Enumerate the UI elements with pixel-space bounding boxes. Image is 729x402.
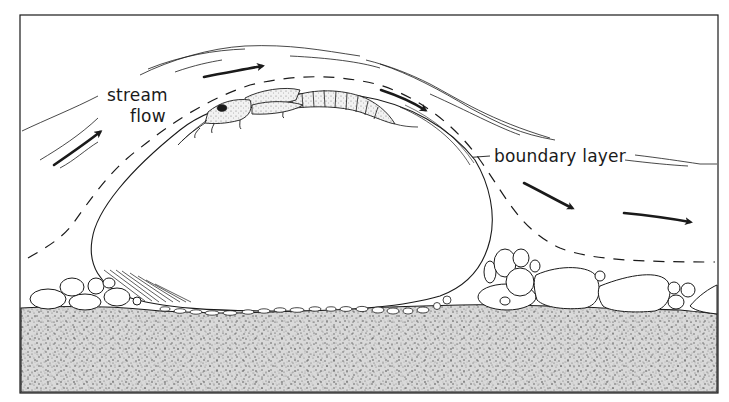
boundary-layer-label: boundary layer bbox=[494, 148, 626, 165]
pebbles-right bbox=[478, 249, 717, 314]
diagram-canvas bbox=[0, 0, 729, 402]
flow-arrow-icon bbox=[624, 213, 690, 222]
sand-substrate bbox=[21, 305, 717, 392]
larva-eye bbox=[217, 105, 227, 112]
flow-arrow-icon bbox=[54, 132, 100, 165]
stream-boundary-layer-diagram: stream flow boundary layer bbox=[0, 0, 729, 402]
rock bbox=[91, 93, 492, 311]
stream-flow-label-line2: flow bbox=[130, 108, 166, 125]
stream-flow-label-line1: stream bbox=[107, 87, 168, 104]
flow-arrow-icon bbox=[524, 183, 572, 208]
flow-arrow-icon bbox=[204, 66, 262, 77]
